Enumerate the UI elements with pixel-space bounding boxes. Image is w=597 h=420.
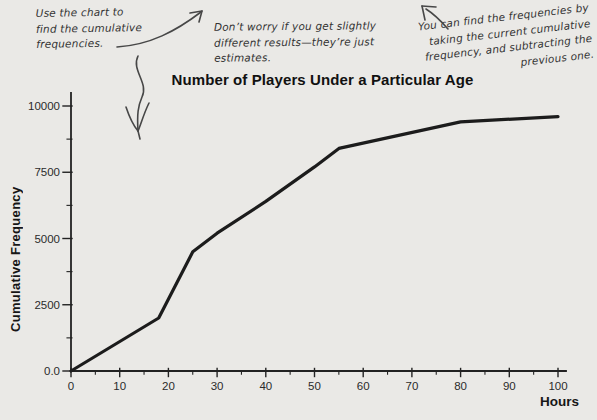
x-tick-label: 40 (259, 380, 272, 392)
book-page: Use the chart to find the cumulative fre… (0, 0, 597, 420)
x-tick-label: 30 (211, 380, 224, 392)
x-tick-label: 20 (162, 380, 175, 392)
x-tick-label: 60 (357, 380, 370, 392)
y-tick-label: 10000 (28, 100, 60, 112)
x-tick-label: 100 (548, 380, 567, 392)
y-tick-label: 0.0 (44, 365, 60, 377)
x-tick-label: 90 (503, 380, 516, 392)
x-tick-label: 80 (454, 380, 467, 392)
y-tick-label: 2500 (34, 299, 60, 311)
cumulative-frequency-line (71, 117, 558, 371)
x-tick-label: 10 (113, 380, 126, 392)
x-tick-label: 50 (308, 380, 321, 392)
y-tick-label: 7500 (34, 166, 60, 178)
cumulative-frequency-chart: 01020304050607080901000.0250050007500100… (0, 0, 597, 420)
x-tick-label: 70 (406, 380, 419, 392)
y-tick-label: 5000 (34, 233, 60, 245)
x-tick-label: 0 (68, 380, 74, 392)
